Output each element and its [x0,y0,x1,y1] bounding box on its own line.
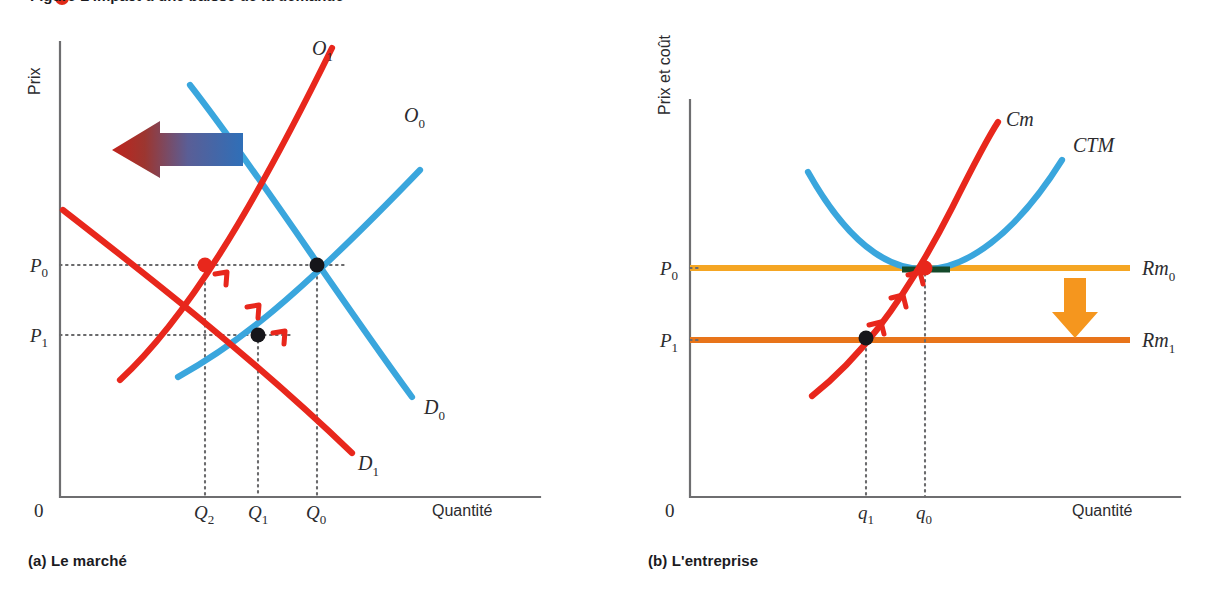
caption-panel-a: (a) Le marché [28,552,127,569]
panel-a-label-o1: O1 [312,37,333,64]
panel-b-y-axis-label: Prix et coût [656,34,673,115]
panel-b-label-cm: Cm [1006,108,1034,130]
panel-b-revenue-shift-arrow [1052,278,1098,338]
figure-root: Figure L'impact d'une baisse de la deman… [0,0,1211,596]
panel-a-point-e2 [198,258,213,273]
panel-b-ytick-p1: P1 [659,330,678,355]
panel-b-axes [690,100,1180,497]
panel-a-label-o0: O0 [404,104,425,131]
figure-canvas: Prix Quantité 0 P0 P1 Q2 Q1 Q0 O1 [0,0,1211,596]
panel-b-origin-label: 0 [665,500,675,521]
panel-a-y-axis-label: Prix [26,67,43,95]
panel-b-point-a0 [918,261,933,276]
panel-a-xtick-q0: Q0 [306,502,326,527]
panel-a-ytick-p0: P0 [29,255,48,280]
panel-b-xtick-q1: q1 [858,502,874,527]
curve-supply-o1 [120,48,332,380]
panel-a-x-axis-label: Quantité [432,502,493,519]
panel-a-label-d0: D0 [423,396,445,423]
panel-a-origin-label: 0 [34,500,44,521]
curve-ctm [808,160,1062,269]
panel-b-group: Prix et coût Quantité 0 P0 P1 q1 q0 Cm [656,34,1180,527]
panel-b-label-ctm: CTM [1073,134,1115,156]
panel-b-xtick-q0: q0 [916,502,932,527]
panel-a-label-d1: D1 [357,452,379,479]
panel-b-ytick-p0: P0 [659,258,678,283]
caption-panel-b: (b) L'entreprise [648,552,758,569]
panel-a-point-e0 [310,258,325,273]
panel-a-point-e1 [251,328,266,343]
panel-a-xtick-q1: Q1 [248,502,268,527]
panel-a-group: Prix Quantité 0 P0 P1 Q2 Q1 Q0 O1 [26,37,540,527]
panel-b-point-a1 [859,331,874,346]
panel-b-label-rm1: Rm1 [1141,329,1175,356]
panel-a-ytick-p1: P1 [29,325,48,350]
panel-a-xtick-q2: Q2 [194,502,214,527]
panel-b-label-rm0: Rm0 [1141,257,1175,284]
panel-b-x-axis-label: Quantité [1072,502,1133,519]
